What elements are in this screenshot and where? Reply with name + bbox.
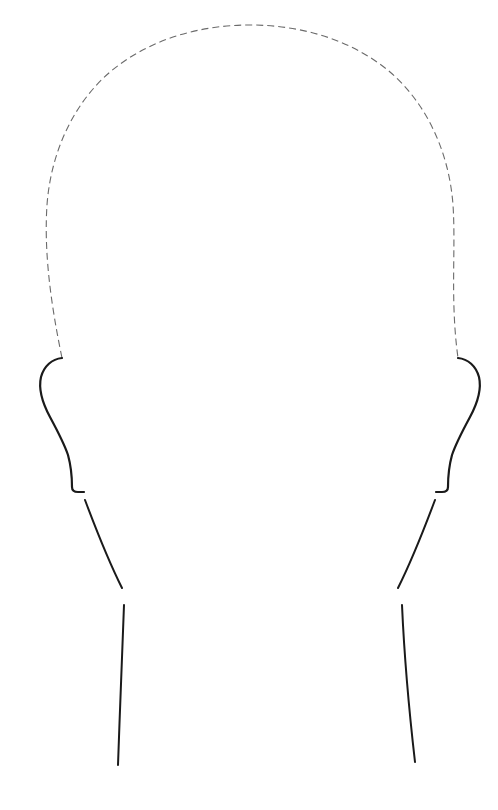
canvas-background	[0, 0, 498, 810]
head-outline-diagram	[0, 0, 498, 810]
head-outline-canvas	[0, 0, 498, 810]
